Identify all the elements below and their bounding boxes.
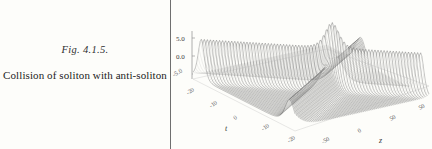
figure-plot-area: 5.0 0.0 -5.0 -20 -10 0 -10 -20 t -50 0 [171, 0, 432, 149]
figure-caption-text: Collision of soliton with anti-soliton [0, 69, 170, 81]
soliton-surface-plot: 5.0 0.0 -5.0 -20 -10 0 -10 -20 t -50 0 [171, 0, 432, 149]
z-tick-label-0: 0.0 [176, 53, 185, 61]
figure-number-label: Fig. 4.1.5. [0, 44, 170, 55]
z-tick-label-5: 5.0 [176, 35, 185, 43]
z-tick-label-minus5: -5.0 [171, 67, 183, 78]
figure-caption-block: Fig. 4.1.5. Collision of soliton with an… [0, 0, 170, 149]
wireframe-mesh-surface [193, 23, 429, 149]
scanned-figure-page: Fig. 4.1.5. Collision of soliton with an… [0, 0, 432, 149]
